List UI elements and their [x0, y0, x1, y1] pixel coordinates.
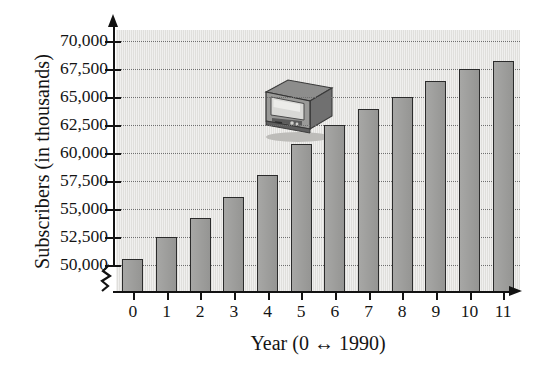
bar	[156, 237, 177, 292]
y-axis-tick-mark	[105, 237, 121, 239]
x-axis-tick-mark	[268, 291, 270, 300]
y-axis-tick-mark	[105, 153, 121, 155]
y-axis-tick-mark	[105, 265, 121, 267]
bar	[392, 97, 413, 292]
y-axis-tick-mark	[105, 97, 121, 99]
x-axis-line	[113, 291, 511, 293]
bar	[358, 109, 379, 292]
x-axis-tick-mark	[234, 291, 236, 300]
television-illustration	[258, 74, 334, 144]
y-axis-tick-mark	[105, 125, 121, 127]
y-axis-tick-mark	[105, 181, 121, 183]
x-axis-tick-mark	[503, 291, 505, 300]
x-axis-tick-mark	[369, 291, 371, 300]
y-axis-tick-label: 57,500	[36, 172, 108, 190]
bar	[324, 125, 345, 292]
y-axis-tick-mark	[105, 209, 121, 211]
y-axis-tick-labels: 70,00067,50065,00062,50060,00057,50055,0…	[36, 0, 108, 373]
bar-chart-figure: Subscribers (in thousands) 70,00067,5006…	[0, 0, 540, 373]
bar	[223, 197, 244, 292]
bar	[459, 69, 480, 292]
y-axis-line	[113, 26, 115, 266]
y-axis-tick-mark	[105, 69, 121, 71]
x-axis-tick-mark	[402, 291, 404, 300]
x-axis-tick-mark	[436, 291, 438, 300]
x-axis-tick-mark	[133, 291, 135, 300]
bar	[190, 218, 211, 292]
x-axis-tick-mark	[301, 291, 303, 300]
x-axis-tick-mark	[335, 291, 337, 300]
x-axis-tick-mark	[167, 291, 169, 300]
y-axis-arrowhead	[108, 14, 118, 27]
y-axis-tick-label: 55,000	[36, 200, 108, 218]
bar	[425, 81, 446, 292]
y-axis-tick-label: 52,500	[36, 228, 108, 246]
bar	[257, 175, 278, 292]
bar	[291, 144, 312, 292]
x-axis-tick-mark	[200, 291, 202, 300]
y-axis-tick-label: 62,500	[36, 116, 108, 134]
bar	[122, 259, 143, 292]
y-axis-tick-label: 67,500	[36, 60, 108, 78]
x-axis-tick-label: 11	[483, 302, 523, 321]
y-axis-tick-label: 60,000	[36, 144, 108, 162]
x-axis-arrowhead	[509, 286, 522, 296]
y-axis-tick-mark	[105, 41, 121, 43]
y-axis-tick-label: 50,000	[36, 256, 108, 274]
x-axis-tick-mark	[470, 291, 472, 300]
gridline	[116, 41, 520, 42]
bar	[493, 61, 514, 292]
x-axis-title: Year (0 ↔ 1990)	[116, 332, 520, 355]
y-axis-tick-label: 70,000	[36, 32, 108, 50]
plot-area	[116, 30, 520, 292]
y-axis-tick-label: 65,000	[36, 88, 108, 106]
